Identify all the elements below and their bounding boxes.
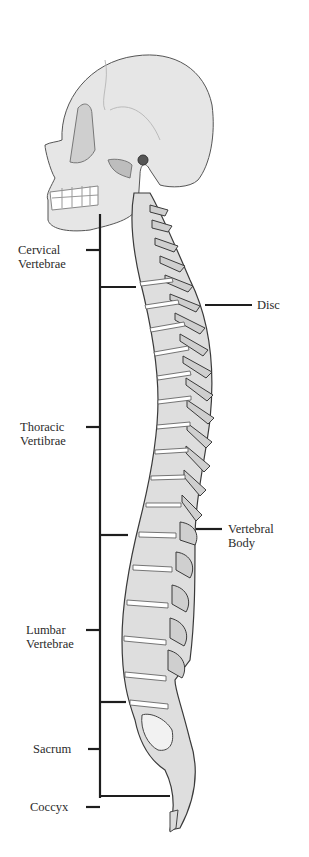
label-thoracic-line2: Vertibrae xyxy=(20,434,66,448)
label-disc-line1: Disc xyxy=(257,298,280,312)
label-vertebral-body-line2: Body xyxy=(228,536,274,550)
spine xyxy=(122,193,214,832)
label-sacrum: Sacrum xyxy=(33,742,71,756)
label-thoracic-line1: Thoracic xyxy=(20,420,66,434)
label-disc: Disc xyxy=(257,298,280,312)
label-cervical-line2: Vertebrae xyxy=(18,257,84,271)
label-lumbar-line1: Lumbar xyxy=(26,623,74,637)
label-thoracic-vertebrae: Thoracic Vertibrae xyxy=(20,420,66,448)
label-vertebral-body-line1: Vertebral xyxy=(228,522,274,536)
label-sacrum-line1: Sacrum xyxy=(33,742,71,756)
label-lumbar-line2: Vertebrae xyxy=(26,637,74,651)
label-cervical-vertebrae: Cervical Vertebrae xyxy=(18,243,84,271)
label-vertebral-body: Vertebral Body xyxy=(228,522,274,550)
label-coccyx: Coccyx xyxy=(30,800,68,814)
label-cervical-line1: Cervical xyxy=(18,243,84,257)
label-lumbar-vertebrae: Lumbar Vertebrae xyxy=(26,623,74,651)
label-coccyx-line1: Coccyx xyxy=(30,800,68,814)
skull xyxy=(45,55,213,231)
